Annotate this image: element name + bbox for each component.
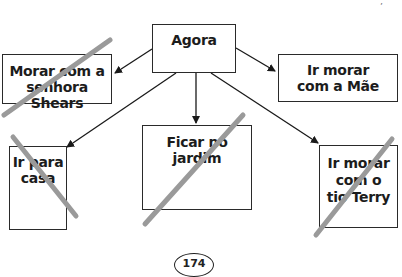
node-label-line: Ir morar bbox=[327, 155, 389, 171]
node-agora: Agora bbox=[152, 24, 236, 73]
page-number: 174 bbox=[174, 253, 214, 277]
corner-mark: ’ bbox=[380, 2, 383, 12]
node-label-line: casa bbox=[21, 170, 55, 186]
node-morar-senhora-shears: Morar com a senhora Shears bbox=[2, 54, 112, 104]
node-label-line: Ir morar bbox=[307, 62, 369, 78]
node-label-line: senhora Shears bbox=[26, 79, 88, 111]
node-agora-label: Agora bbox=[153, 25, 235, 48]
node-label-line: Morar com a bbox=[9, 63, 104, 79]
node-ir-para-casa: Ir para casa bbox=[9, 146, 67, 230]
node-ficar-no-jardim: Ficar no jardim bbox=[142, 125, 252, 210]
node-label-line: jardim bbox=[173, 150, 222, 166]
node-ir-morar-com-mae: Ir morar com a Mãe bbox=[278, 54, 398, 102]
node-label-line: tio Terry bbox=[327, 189, 390, 205]
node-label-line: Ir para bbox=[13, 154, 64, 170]
node-label-line: com a Mãe bbox=[297, 78, 379, 94]
node-label-line: Ficar no bbox=[166, 134, 227, 150]
node-ir-morar-com-tio-terry: Ir morar com o tio Terry bbox=[319, 145, 398, 228]
node-label-line: com o bbox=[336, 172, 382, 188]
